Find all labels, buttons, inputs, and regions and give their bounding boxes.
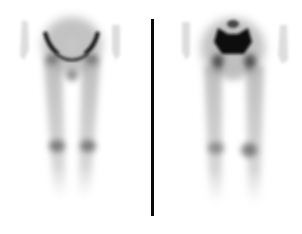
scintigraphy-image <box>0 0 302 234</box>
left-view <box>20 17 120 200</box>
view-divider <box>151 19 154 216</box>
right-view <box>182 18 288 205</box>
